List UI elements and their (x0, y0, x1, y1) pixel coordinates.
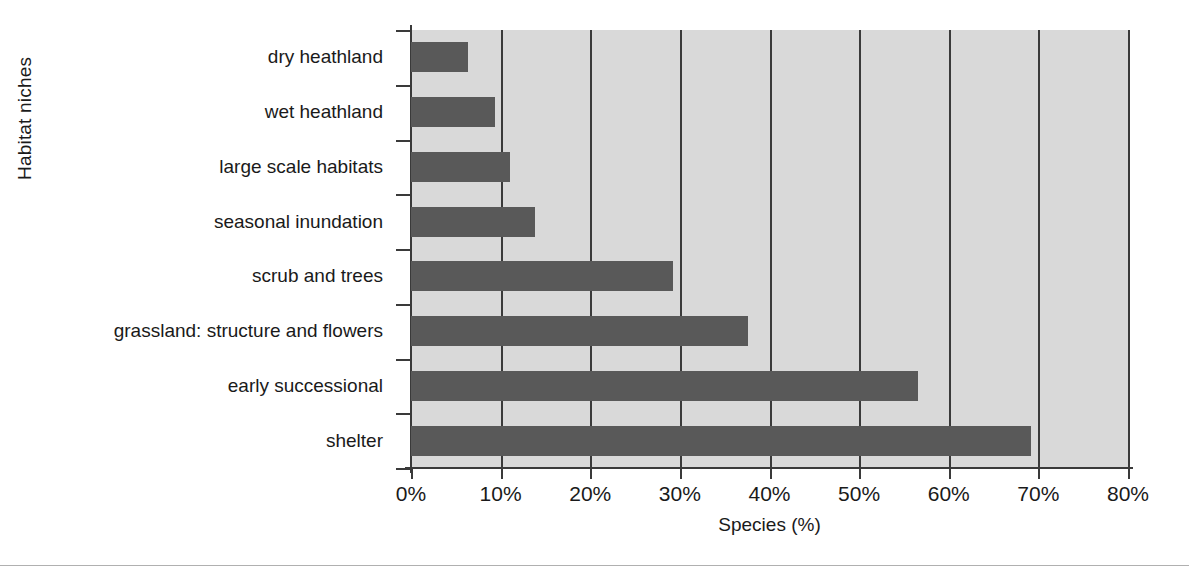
bar (411, 426, 1031, 456)
page-bottom-rule (0, 565, 1189, 566)
y-axis-category-label: shelter (53, 430, 383, 452)
y-axis-category-label: wet heathland (53, 101, 383, 123)
y-axis-category-label: seasonal inundation (53, 211, 383, 233)
x-axis-tick (501, 468, 503, 479)
x-gridline (590, 30, 592, 468)
x-axis-tick (1128, 468, 1130, 479)
x-axis-tick-label: 30% (635, 482, 725, 506)
x-axis-title: Species (%) (411, 514, 1128, 536)
y-axis-tick (396, 140, 411, 142)
y-axis-category-label: grassland: structure and flowers (53, 320, 383, 342)
x-axis-tick (949, 468, 951, 479)
x-axis-tick (770, 468, 772, 479)
x-axis-tick-label: 60% (904, 482, 994, 506)
x-axis-tick-label: 50% (814, 482, 904, 506)
bar (411, 261, 673, 291)
y-axis-tick (396, 85, 411, 87)
y-axis-tick (396, 194, 411, 196)
x-axis-tick (680, 468, 682, 479)
y-axis-category-label: scrub and trees (53, 265, 383, 287)
bar (411, 42, 468, 72)
x-gridline (1038, 30, 1040, 468)
bar (411, 371, 918, 401)
y-axis-tick (396, 249, 411, 251)
y-axis-tick (396, 304, 411, 306)
x-axis-tick (859, 468, 861, 479)
x-axis-tick-label: 70% (993, 482, 1083, 506)
y-axis-tick (396, 359, 411, 361)
y-axis-tick (396, 413, 411, 415)
y-axis-category-labels: dry heathlandwet heathlandlarge scale ha… (60, 30, 395, 468)
x-axis-tick (411, 468, 413, 479)
x-axis-tick-label: 0% (366, 482, 456, 506)
y-axis-title: Habitat niches (14, 0, 44, 180)
y-axis-category-label: early successional (53, 375, 383, 397)
x-axis-tick-label: 40% (725, 482, 815, 506)
y-axis-tick (396, 30, 411, 32)
x-axis-tick (590, 468, 592, 479)
bar (411, 152, 510, 182)
x-gridline (1128, 30, 1130, 468)
bar (411, 316, 748, 346)
x-gridline (949, 30, 951, 468)
x-gridline (680, 30, 682, 468)
x-axis-tick-label: 80% (1083, 482, 1173, 506)
x-gridline (770, 30, 772, 468)
bar-chart-figure: Habitat niches dry heathlandwet heathlan… (0, 0, 1189, 581)
x-gridline (501, 30, 503, 468)
x-axis-tick-label: 10% (456, 482, 546, 506)
y-axis-category-label: large scale habitats (53, 156, 383, 178)
x-axis-tick-label: 20% (545, 482, 635, 506)
x-gridline (859, 30, 861, 468)
bar (411, 207, 535, 237)
y-axis-tick (396, 468, 411, 470)
y-axis-category-label: dry heathland (53, 46, 383, 68)
bar (411, 97, 495, 127)
x-axis-tick (1038, 468, 1040, 479)
